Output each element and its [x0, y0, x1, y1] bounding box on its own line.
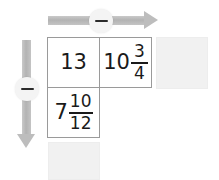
grid-cell-10-3-4[interactable]: 10 3 4: [99, 37, 152, 88]
grid-row: 7 10 12: [47, 88, 152, 138]
grid-cell-empty: [99, 87, 152, 138]
horizontal-minus-handle[interactable]: [89, 9, 113, 33]
numerator: 3: [133, 43, 146, 61]
whole-part: 10: [103, 52, 130, 73]
cell-value: 13: [60, 52, 87, 73]
denominator: 4: [133, 65, 146, 83]
horizontal-arrow-head-icon: [144, 11, 158, 29]
canvas: 13 10 3 4 7 10: [0, 0, 219, 180]
number-grid: 13 10 3 4 7 10: [47, 37, 152, 138]
grid-cell-13[interactable]: 13: [47, 37, 100, 88]
vertical-minus-handle[interactable]: [15, 77, 39, 101]
grid-row: 13 10 3 4: [47, 37, 152, 88]
ghost-cell-bottom: [48, 142, 100, 180]
ghost-cell-right: [156, 37, 208, 89]
minus-icon: [95, 20, 108, 22]
fraction: 3 4: [131, 43, 148, 83]
mixed-number: 7 10 12: [54, 93, 92, 133]
fraction: 10 12: [69, 93, 93, 133]
minus-icon: [21, 88, 34, 90]
whole-part: 7: [54, 102, 67, 123]
vertical-arrow-head-icon: [17, 134, 35, 148]
denominator: 12: [69, 115, 93, 133]
mixed-number: 10 3 4: [103, 43, 148, 83]
numerator: 10: [69, 93, 93, 111]
grid-cell-7-10-12[interactable]: 7 10 12: [47, 87, 100, 138]
